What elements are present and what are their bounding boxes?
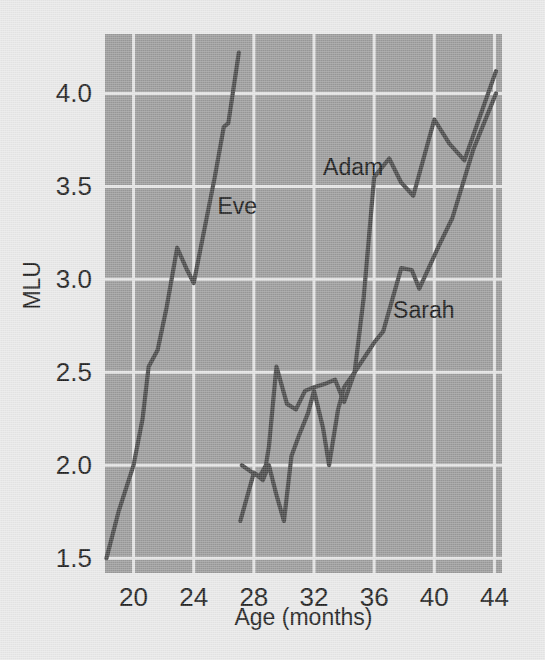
x-tick-label: 44 [480,582,509,612]
series-label-adam: Adam [323,154,383,180]
series-label-eve: Eve [218,193,258,219]
chart-figure: 1.52.02.53.03.54.0 20242832364044 MLU Ag… [0,0,545,660]
x-tick-label: 24 [179,582,208,612]
y-tick-label: 2.5 [56,357,92,387]
y-tick-label: 4.0 [56,78,92,108]
y-axis-title: MLU [19,261,45,310]
y-tick-label: 3.0 [56,264,92,294]
y-tick-label: 2.0 [56,450,92,480]
y-tick-label: 3.5 [56,171,92,201]
x-tick-label: 20 [119,582,148,612]
x-tick-label: 40 [420,582,449,612]
x-axis-title: Age (months) [234,604,372,630]
mlu-line-chart: 1.52.02.53.03.54.0 20242832364044 MLU Ag… [0,0,545,660]
y-tick-label: 1.5 [56,543,92,573]
series-label-sarah: Sarah [393,297,454,323]
